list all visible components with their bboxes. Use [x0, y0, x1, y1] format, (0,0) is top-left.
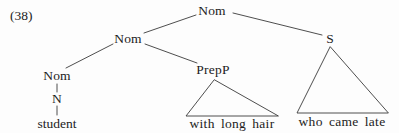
- syntax-tree-figure: (38) Nom Nom S Nom PrepP N student with …: [0, 0, 399, 133]
- prepp-triangle: [186, 80, 278, 116]
- terminal-with-long-hair: with long hair: [190, 117, 275, 131]
- node-nom-low: Nom: [43, 69, 71, 83]
- terminal-student: student: [38, 117, 77, 131]
- branch-nommid-prepp: [145, 44, 197, 63]
- terminal-who-came-late: who came late: [299, 115, 386, 129]
- branch-nomtop-s: [233, 13, 322, 35]
- node-nom-top: Nom: [198, 4, 226, 18]
- node-prepp: PrepP: [196, 63, 229, 77]
- branch-nommid-nomlow: [66, 44, 113, 68]
- node-nom-mid: Nom: [114, 32, 142, 46]
- s-triangle: [297, 47, 388, 113]
- node-s: S: [326, 32, 334, 46]
- branch-nomtop-nommid: [144, 15, 196, 33]
- node-n: N: [52, 92, 62, 106]
